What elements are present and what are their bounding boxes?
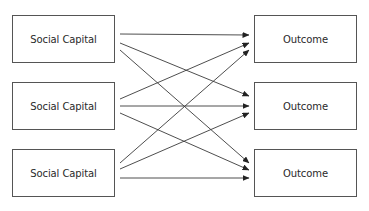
source-box-1: Social Capital	[12, 15, 115, 63]
source-box-2: Social Capital	[12, 82, 115, 130]
arrow-s1-to-t1	[120, 34, 249, 35]
source-label-1: Social Capital	[30, 34, 97, 45]
target-box-1: Outcome	[254, 15, 357, 63]
target-label-1: Outcome	[283, 34, 328, 45]
source-label-3: Social Capital	[30, 168, 97, 179]
target-label-2: Outcome	[283, 101, 328, 112]
target-box-3: Outcome	[254, 149, 357, 197]
source-label-2: Social Capital	[30, 101, 97, 112]
target-label-3: Outcome	[283, 168, 328, 179]
target-box-2: Outcome	[254, 82, 357, 130]
source-box-3: Social Capital	[12, 149, 115, 197]
